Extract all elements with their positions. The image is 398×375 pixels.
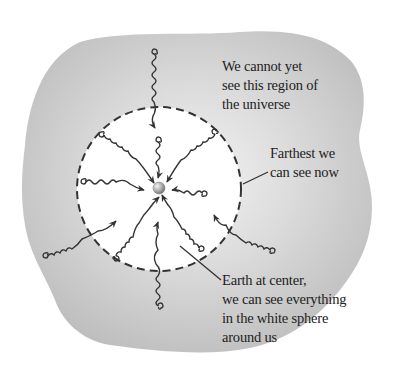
unseen-region-label: We cannot yet see this region of the uni… — [222, 57, 318, 114]
horizon-label: Farthest we can see now — [270, 144, 339, 182]
earth-icon — [153, 182, 165, 194]
earth-label: Earth at center, we can see everything i… — [222, 271, 346, 347]
